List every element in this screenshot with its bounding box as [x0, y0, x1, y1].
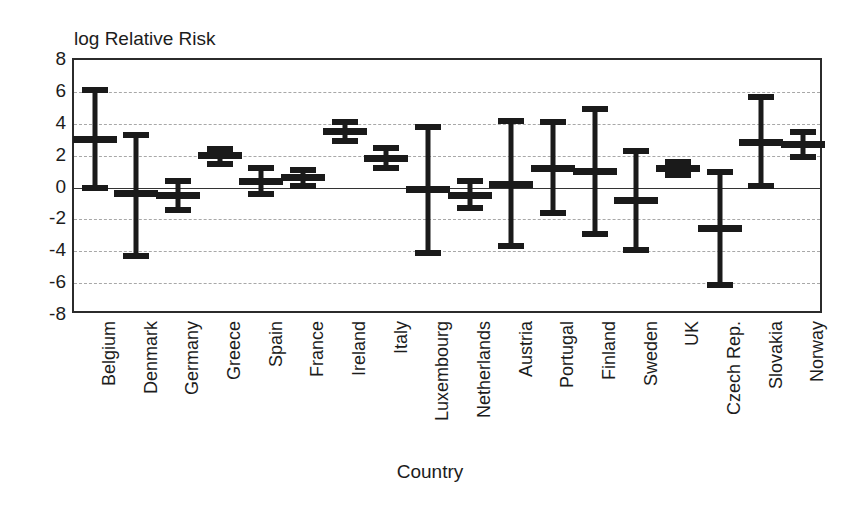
y-tick-label: 6 — [4, 80, 66, 99]
x-tick-label: Belgium — [100, 321, 118, 386]
error-bar — [199, 60, 241, 311]
error-bar-point-estimate — [156, 192, 200, 199]
error-bar — [741, 60, 783, 311]
error-bar — [699, 60, 741, 311]
error-bar-upper-cap — [373, 145, 399, 151]
error-bar-point-estimate — [656, 165, 700, 172]
error-bar-point-estimate — [281, 174, 325, 181]
x-tick-label: Austria — [517, 321, 535, 377]
error-bar-lower-cap — [123, 253, 149, 259]
error-bar-lower-cap — [165, 207, 191, 213]
error-bar — [241, 60, 283, 311]
error-bar-lower-cap — [707, 282, 733, 288]
error-bar-point-estimate — [73, 136, 117, 143]
error-bar — [574, 60, 616, 311]
y-tick-label: 8 — [4, 49, 66, 68]
error-bar-lower-cap — [373, 165, 399, 171]
error-bar-lower-cap — [748, 183, 774, 189]
y-tick-label: 4 — [4, 112, 66, 131]
error-bar — [657, 60, 699, 311]
y-tick-label: 0 — [4, 176, 66, 195]
error-bar-point-estimate — [698, 225, 742, 232]
x-tick-label: Sweden — [642, 321, 660, 386]
chart-page: log Relative Risk 86420-2-4-6-8 BelgiumD… — [0, 0, 860, 516]
error-bar — [407, 60, 449, 311]
error-bar-upper-cap — [623, 148, 649, 154]
y-tick-label: -4 — [4, 240, 66, 259]
error-bar-point-estimate — [739, 139, 783, 146]
error-bar-lower-cap — [457, 205, 483, 211]
error-bar-point-estimate — [781, 141, 825, 148]
error-bar-lower-cap — [248, 191, 274, 197]
error-bar-upper-cap — [498, 118, 524, 124]
x-tick-label: Czech Rep. — [725, 321, 743, 415]
x-tick-label: UK — [683, 321, 701, 346]
error-bar-lower-cap — [290, 183, 316, 189]
y-tick-label: -8 — [4, 304, 66, 323]
error-bar — [491, 60, 533, 311]
y-tick-label: 2 — [4, 144, 66, 163]
x-tick-label: Portugal — [558, 321, 576, 388]
x-tick-label: France — [308, 321, 326, 377]
plot-area — [72, 58, 822, 313]
error-bar-lower-cap — [540, 210, 566, 216]
error-bar-point-estimate — [531, 165, 575, 172]
error-bar-upper-cap — [540, 119, 566, 125]
error-bar-lower-cap — [82, 185, 108, 191]
y-axis-title: log Relative Risk — [74, 28, 216, 50]
error-bar — [449, 60, 491, 311]
error-bar-point-estimate — [573, 168, 617, 175]
error-bar — [782, 60, 824, 311]
y-axis-tick-labels: 86420-2-4-6-8 — [0, 58, 66, 313]
error-bar-point-estimate — [323, 128, 367, 135]
error-bar-point-estimate — [448, 192, 492, 199]
error-bar-upper-cap — [457, 178, 483, 184]
x-tick-label: Greece — [225, 321, 243, 380]
x-tick-label: Spain — [267, 321, 285, 367]
error-bar — [282, 60, 324, 311]
error-bar-upper-cap — [707, 169, 733, 175]
x-tick-label: Luxembourg — [433, 321, 451, 421]
error-bar — [366, 60, 408, 311]
error-bar-upper-cap — [290, 167, 316, 173]
error-bar-point-estimate — [406, 186, 450, 193]
error-bar — [616, 60, 658, 311]
x-tick-label: Netherlands — [475, 321, 493, 418]
error-bar-point-estimate — [114, 190, 158, 197]
error-bar-upper-cap — [415, 124, 441, 130]
error-bar-lower-cap — [582, 231, 608, 237]
x-tick-label: Slovakia — [767, 321, 785, 389]
y-tick-label: -6 — [4, 272, 66, 291]
error-bar-point-estimate — [614, 197, 658, 204]
error-bar-lower-cap — [207, 161, 233, 167]
error-bar-upper-cap — [748, 94, 774, 100]
error-bar-point-estimate — [364, 155, 408, 162]
error-bar-lower-cap — [665, 172, 691, 178]
error-bar-point-estimate — [239, 178, 283, 185]
error-bar-point-estimate — [198, 152, 242, 159]
x-tick-label: Denmark — [142, 321, 160, 394]
error-bar-upper-cap — [790, 129, 816, 135]
y-tick-label: -2 — [4, 208, 66, 227]
x-tick-label: Ireland — [350, 321, 368, 376]
error-bar-upper-cap — [582, 106, 608, 112]
x-tick-label: Norway — [808, 321, 826, 382]
error-bar-upper-cap — [332, 119, 358, 125]
error-bar-upper-cap — [248, 165, 274, 171]
error-bar — [532, 60, 574, 311]
error-bar — [116, 60, 158, 311]
x-tick-label: Germany — [183, 321, 201, 395]
x-axis-tick-labels: BelgiumDenmarkGermanyGreeceSpainFranceIr… — [72, 313, 822, 453]
error-bar-lower-cap — [623, 247, 649, 253]
error-bar-lower-cap — [790, 154, 816, 160]
error-bar-point-estimate — [489, 181, 533, 188]
error-bar-upper-cap — [123, 132, 149, 138]
error-bar-upper-cap — [82, 87, 108, 93]
error-bar-upper-cap — [165, 178, 191, 184]
error-bar-series — [74, 60, 820, 311]
error-bar — [324, 60, 366, 311]
x-tick-label: Finland — [600, 321, 618, 380]
x-tick-label: Italy — [392, 321, 410, 354]
x-axis-title: Country — [0, 461, 860, 483]
error-bar-lower-cap — [332, 138, 358, 144]
